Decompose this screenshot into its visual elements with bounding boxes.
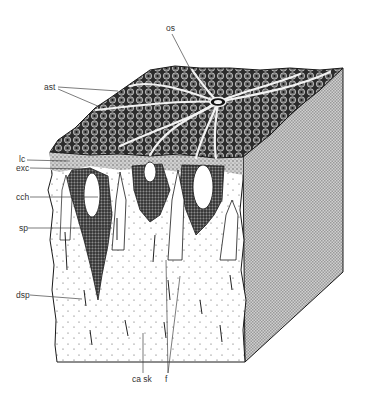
label-cch: cch — [16, 192, 30, 202]
label-sp: sp — [19, 223, 28, 233]
label-exc: exc — [16, 163, 30, 173]
sponge-block-diagram: os ast lc exc cch sp dsp ca sk f — [0, 0, 365, 402]
chamber-cch — [84, 173, 100, 217]
label-f: f — [165, 374, 168, 384]
label-dsp: dsp — [16, 290, 30, 300]
label-ast: ast — [44, 82, 56, 92]
chamber-middle — [144, 162, 156, 182]
label-os: os — [166, 23, 175, 33]
osculum-inner — [214, 100, 222, 104]
label-ca-sk: ca sk — [132, 374, 153, 384]
chamber-right — [193, 165, 213, 209]
